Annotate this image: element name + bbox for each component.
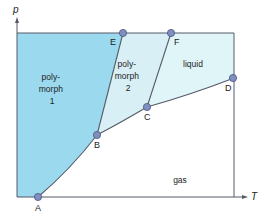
t-axis-arrow-icon [242, 195, 248, 199]
region-label-liquid: liquid [183, 59, 203, 69]
point-label-d: D [225, 83, 232, 93]
p-axis-label: p [12, 4, 19, 15]
point-f [167, 29, 174, 36]
t-axis-label: T [251, 191, 258, 202]
point-e [119, 29, 126, 36]
p-axis-arrow-icon [15, 17, 19, 23]
point-b [93, 131, 100, 138]
point-label-a: A [35, 203, 41, 213]
point-c [143, 103, 150, 110]
phase-diagram: p T A B C D E F poly- morph 1 poly- morp… [0, 0, 270, 218]
region-label-gas: gas [173, 175, 187, 185]
point-label-c: C [144, 112, 151, 122]
point-label-b: B [94, 140, 100, 150]
point-d [229, 74, 236, 81]
point-label-f: F [174, 37, 180, 47]
point-label-e: E [110, 37, 116, 47]
point-a [34, 193, 41, 200]
